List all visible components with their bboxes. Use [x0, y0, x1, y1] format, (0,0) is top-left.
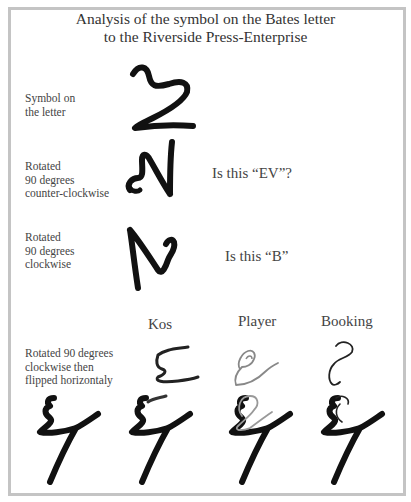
label-line: 90 degrees	[25, 174, 109, 188]
label-line: flipped horizontaly	[25, 374, 113, 388]
kos-handwriting-sample	[152, 345, 202, 390]
label-line: 90 degrees	[25, 245, 75, 259]
label-line: Rotated	[25, 160, 109, 174]
symbol-with-player-overlay	[220, 392, 300, 492]
label-rotated-cw: Rotated 90 degrees clockwise	[25, 231, 75, 272]
label-symbol-on-letter: Symbol on the letter	[25, 92, 75, 119]
label-line: Rotated	[25, 231, 75, 245]
symbol-rotated-ccw-image	[118, 140, 188, 210]
label-line: clockwise	[25, 258, 75, 272]
symbol-flipped-alone	[28, 392, 108, 492]
label-line: the letter	[25, 106, 75, 120]
column-header-player: Player	[238, 313, 276, 330]
title-line-2: to the Riverside Press-Enterprise	[0, 28, 411, 46]
label-line: clockwise then	[25, 361, 113, 375]
symbol-rotated-cw-image	[118, 222, 188, 292]
question-b: Is this “B”	[225, 248, 288, 265]
question-ev: Is this “EV”?	[212, 165, 292, 182]
label-line: Rotated 90 degrees	[25, 347, 113, 361]
figure-title: Analysis of the symbol on the Bates lett…	[0, 10, 411, 46]
player-handwriting-sample	[232, 345, 282, 390]
symbol-with-booking-overlay	[312, 392, 392, 492]
label-line: counter-clockwise	[25, 187, 109, 201]
label-rotated-ccw: Rotated 90 degrees counter-clockwise	[25, 160, 109, 201]
title-line-1: Analysis of the symbol on the Bates lett…	[0, 10, 411, 28]
booking-handwriting-sample	[322, 340, 362, 390]
symbol-original-image	[125, 62, 205, 142]
symbol-with-kos-overlay	[120, 392, 200, 492]
label-line: Symbol on	[25, 92, 75, 106]
column-header-booking: Booking	[321, 313, 373, 330]
label-rotated-flipped: Rotated 90 degrees clockwise then flippe…	[25, 347, 113, 388]
column-header-kos: Kos	[148, 316, 172, 333]
